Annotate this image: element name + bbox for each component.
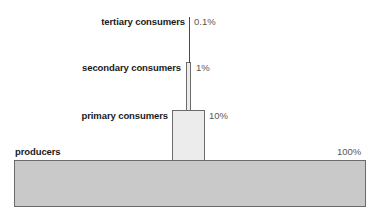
tertiary-consumers-percent: 0.1%: [194, 16, 216, 27]
tertiary-consumers-bar: [189, 17, 190, 63]
producers-bar: [14, 160, 366, 207]
secondary-consumers-label: secondary consumers: [0, 62, 181, 73]
tertiary-consumers-label: tertiary consumers: [0, 16, 185, 27]
secondary-consumers-bar: [186, 62, 191, 111]
producers-percent: 100%: [337, 146, 361, 157]
primary-consumers-bar: [172, 110, 205, 161]
producers-label: producers: [15, 146, 135, 157]
energy-pyramid-diagram: producers 100% primary consumers 10% sec…: [0, 0, 381, 224]
primary-consumers-label: primary consumers: [0, 110, 168, 121]
primary-consumers-percent: 10%: [209, 110, 228, 121]
secondary-consumers-percent: 1%: [196, 62, 210, 73]
